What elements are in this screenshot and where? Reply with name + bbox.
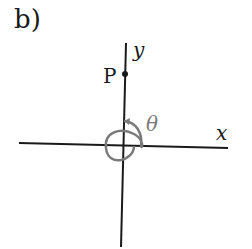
- point-p-marker: [122, 71, 128, 77]
- angle-label: θ: [146, 112, 158, 136]
- x-axis-label: x: [216, 121, 227, 145]
- coordinate-diagram: [0, 0, 252, 249]
- point-label: P: [103, 64, 116, 88]
- y-axis-label: y: [133, 38, 144, 62]
